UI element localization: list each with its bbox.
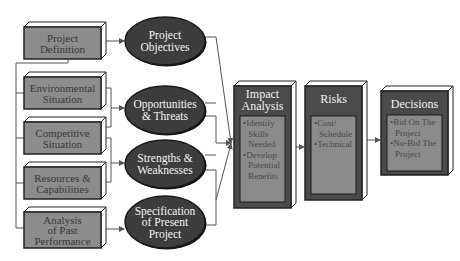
output-oval-label: Objectives bbox=[140, 41, 190, 54]
bid-decision-diagram: ProjectDefinitionEnvironmentalSituationC… bbox=[0, 0, 460, 261]
input-box-environmental-situation: EnvironmentalSituation bbox=[24, 72, 106, 109]
output-oval-label: Project bbox=[149, 228, 182, 241]
stage-title: Analysis bbox=[242, 99, 284, 113]
stage-title: Risks bbox=[320, 92, 347, 106]
output-oval-specification-present-project: Specificationof PresentProject bbox=[125, 196, 207, 250]
input-box-analysis-past-performance: Analysisof PastPerformance bbox=[24, 207, 106, 248]
stage-bullet-text: Potential bbox=[248, 160, 280, 170]
input-boxes: ProjectDefinitionEnvironmentalSituationC… bbox=[24, 22, 106, 248]
stage-boxes: ImpactAnalysis•IdentifySkillsNeeded•Deve… bbox=[234, 81, 453, 208]
output-oval-label: & Threats bbox=[142, 110, 189, 122]
output-oval-label: Strengths & bbox=[137, 152, 192, 165]
output-oval-project-objectives: ProjectObjectives bbox=[125, 17, 207, 67]
arrow-opportunities-impact bbox=[205, 116, 231, 143]
input-box-competitive-situation: CompetitiveSituation bbox=[24, 117, 106, 154]
bracket-comp-res bbox=[106, 138, 111, 182]
input-box-label: Capabilities bbox=[36, 183, 89, 195]
stage-bullet-text: Project bbox=[395, 128, 421, 138]
input-box-resources-capabilities: Resources &Capabilities bbox=[24, 162, 106, 199]
input-box-project-definition: ProjectDefinition bbox=[24, 22, 106, 59]
output-oval-label: Opportunities bbox=[133, 98, 197, 111]
arrow-objectives-impact bbox=[205, 37, 231, 143]
stage-bullet-text: •Cost/ bbox=[314, 118, 337, 128]
stage-bullet-text: •Develop bbox=[243, 150, 277, 160]
stage-bullet-text: •Technical bbox=[314, 139, 352, 149]
output-oval-label: Weaknesses bbox=[137, 164, 193, 176]
stage-bullet-text: Project bbox=[395, 149, 421, 159]
stage-box-impact-analysis: ImpactAnalysis•IdentifySkillsNeeded•Deve… bbox=[234, 81, 296, 208]
stage-bullet-text: Schedule bbox=[319, 129, 352, 139]
output-oval-label: of Present bbox=[142, 216, 189, 228]
bracket-env-comp bbox=[106, 88, 111, 127]
connector-str-spec bbox=[205, 170, 216, 225]
stage-bullet-text: •Identify bbox=[243, 118, 275, 128]
input-box-label: Definition bbox=[40, 43, 86, 55]
stage-title: Decisions bbox=[391, 97, 439, 111]
arrow-strengths-impact bbox=[216, 144, 231, 200]
stage-bullet-text: Needed bbox=[248, 139, 276, 149]
stage-bullet-text: Benefits bbox=[248, 171, 278, 181]
output-oval-opportunities-threats: Opportunities& Threats bbox=[125, 86, 207, 136]
stage-box-decisions: Decisions•Bid On TheProject•No-Bid ThePr… bbox=[381, 86, 453, 175]
stage-bullet-text: Skills bbox=[248, 129, 269, 139]
output-oval-strengths-weaknesses: Strengths &Weaknesses bbox=[125, 140, 207, 190]
input-box-label: Performance bbox=[34, 235, 90, 247]
input-box-label: Situation bbox=[43, 93, 83, 105]
input-box-label: Situation bbox=[43, 138, 83, 150]
stage-bullet-text: •Bid On The bbox=[390, 117, 435, 127]
output-oval-label: Project bbox=[149, 29, 182, 42]
output-ovals: ProjectObjectivesOpportunities& ThreatsS… bbox=[125, 17, 207, 250]
stage-bullet-text: •No-Bid The bbox=[390, 138, 436, 148]
stage-box-risks: Risks•Cost/Schedule•Technical bbox=[305, 81, 367, 200]
